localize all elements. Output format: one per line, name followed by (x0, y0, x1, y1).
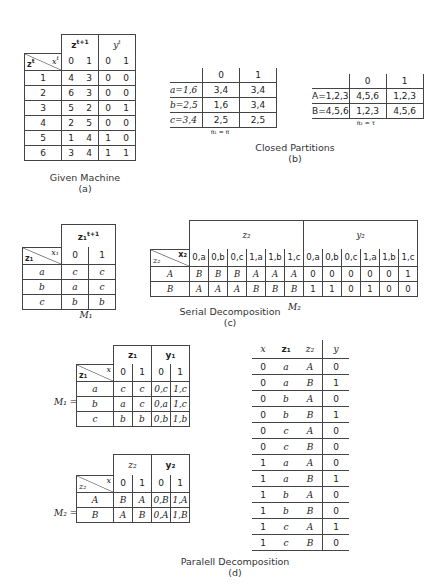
table-row: 0aA0 (252, 359, 349, 375)
table-row: A BBBAAA 000001 (151, 266, 418, 281)
m2-parallel-wrap: z₂ y₂ z₂x 01 01 ABA0,B1,A BAB0,A1,B (76, 454, 190, 523)
table-row: acc (23, 264, 116, 279)
closed-partitions-caption: Closed Partitions(b) (240, 142, 350, 164)
table-cell: b (274, 391, 298, 407)
table-row: 14300 (25, 70, 136, 85)
table-cell: 0 (252, 439, 274, 455)
table-row: 51410 (25, 130, 136, 145)
table-cell: 0 (252, 391, 274, 407)
table-row: B AAABBB 110100 (151, 281, 418, 296)
parallel-caption: Paralell Decomposition(d) (170, 556, 300, 578)
table-cell: 1 (252, 535, 274, 551)
pi2-table-wrap: 01 A=1,2,34,5,61,2,3 B=4,5,61,2,34,5,6 π… (312, 74, 424, 126)
table-row: A=1,2,34,5,61,2,3 (312, 89, 423, 104)
m1-serial-table: z₁t+1 z₁x₁ 01 acc bac cbb (22, 224, 116, 310)
table-cell: 0 (323, 423, 350, 439)
table-cell: a (274, 375, 298, 391)
pi1-note: π₁ = π (202, 128, 238, 135)
table-cell: 1 (252, 487, 274, 503)
table-cell: a (274, 359, 298, 375)
table-cell: 0 (252, 407, 274, 423)
table-cell: 0 (252, 423, 274, 439)
table-row: 1cA1 (252, 519, 349, 535)
table-cell: A (298, 455, 323, 471)
input-col: 0 (99, 53, 118, 70)
table-cell: 1 (252, 455, 274, 471)
m2-serial-table: z₂ y₂ z₂x₂ 0,a0,b0,c1,a1,b1,c 0,a0,b0,c1… (150, 220, 418, 297)
table-row: 1aB1 (252, 471, 349, 487)
table-cell: B (298, 535, 323, 551)
m2-parallel-table: z₂ y₂ z₂x 01 01 ABA0,B1,A BAB0,A1,B (76, 454, 190, 523)
table-row: acc0,c1,c (77, 381, 190, 396)
table-row: ABA0,B1,A (77, 492, 190, 507)
table-cell: 0 (323, 391, 350, 407)
table-cell: b (274, 503, 298, 519)
table-row: 1aA0 (252, 455, 349, 471)
next-state-header: zt+1 (62, 35, 99, 54)
table-cell: 1 (252, 471, 274, 487)
table-cell: 1 (323, 407, 350, 423)
pi1-table: 01 a=1,63,43,4 b=2,51,63,4 c=3,42,52,5 (170, 68, 277, 128)
given-machine-table: zt+1 yt zt xt 0 1 0 1 14300 26300 35201 … (24, 34, 136, 161)
table-cell: 0 (323, 503, 350, 519)
table-row: B=4,5,61,2,34,5,6 (312, 104, 423, 119)
table-cell: 0 (252, 375, 274, 391)
table-cell: c (274, 519, 298, 535)
table-cell: A (298, 359, 323, 375)
table-row: a=1,63,43,4 (170, 83, 277, 98)
table-cell: A (298, 391, 323, 407)
input-col: 1 (117, 53, 136, 70)
table-row: 26300 (25, 85, 136, 100)
table-cell: 0 (323, 535, 350, 551)
table-row: c=3,42,52,5 (170, 113, 277, 128)
table-cell: a (274, 455, 298, 471)
m1-parallel-table: z₁ y₁ z₁x 01 01 acc0,c1,c bac0,a1,c cbb0… (76, 345, 190, 427)
table-cell: 0 (323, 439, 350, 455)
diagonal-header-cell: z₂x (77, 475, 114, 492)
input-col: 0 (62, 53, 81, 70)
m2-eq-label: M₂ = (54, 508, 77, 518)
table-row: bac (23, 279, 116, 294)
table-row: bac0,a1,c (77, 396, 190, 411)
table-row: 0cB0 (252, 439, 349, 455)
table-cell: b (274, 407, 298, 423)
table-cell: A (298, 423, 323, 439)
table-row: 0cA0 (252, 423, 349, 439)
diagonal-header-cell: z₂x₂ (151, 249, 190, 266)
table-cell: B (298, 503, 323, 519)
table-cell: 1 (323, 375, 350, 391)
pi2-table: 01 A=1,2,34,5,61,2,3 B=4,5,61,2,34,5,6 (312, 74, 424, 119)
table-row: 63411 (25, 145, 136, 160)
table-row: cbb0,b1,b (77, 411, 190, 426)
given-machine-caption: Given Machine(a) (20, 172, 150, 194)
output-header: yt (99, 35, 136, 54)
table-row: 1bB0 (252, 503, 349, 519)
table-cell: c (274, 439, 298, 455)
table-cell: c (274, 535, 298, 551)
table-cell: B (298, 375, 323, 391)
m1-label: M₁ (60, 310, 112, 320)
table-cell: B (298, 407, 323, 423)
table-row: BAB0,A1,B (77, 507, 190, 522)
table-cell: 1 (323, 519, 350, 535)
table-cell: 1 (252, 503, 274, 519)
m1-parallel-wrap: z₁ y₁ z₁x 01 01 acc0,c1,c bac0,a1,c cbb0… (76, 345, 190, 427)
table-cell: a (274, 471, 298, 487)
table-cell: B (298, 471, 323, 487)
given-machine-table-wrap: zt+1 yt zt xt 0 1 0 1 14300 26300 35201 … (24, 34, 136, 161)
table-cell: B (298, 439, 323, 455)
table-row: 35201 (25, 100, 136, 115)
table-row: 0aB1 (252, 375, 349, 391)
table-cell: 1 (252, 519, 274, 535)
table-row: cbb (23, 294, 116, 309)
m1-eq-label: M₁ = (54, 397, 77, 407)
table-cell: c (274, 423, 298, 439)
input-col: 1 (80, 53, 99, 70)
table-row: 0bB1 (252, 407, 349, 423)
table-cell: A (298, 487, 323, 503)
m2-serial-wrap: z₂ y₂ z₂x₂ 0,a0,b0,c1,a1,b1,c 0,a0,b0,c1… (150, 220, 418, 297)
table-cell: 1 (323, 471, 350, 487)
table-cell: b (274, 487, 298, 503)
table-row: 1cB0 (252, 535, 349, 551)
output-table-wrap: x z₁ z₂ y 0aA00aB10bA00bB10cA00cB01aA01a… (252, 340, 349, 551)
